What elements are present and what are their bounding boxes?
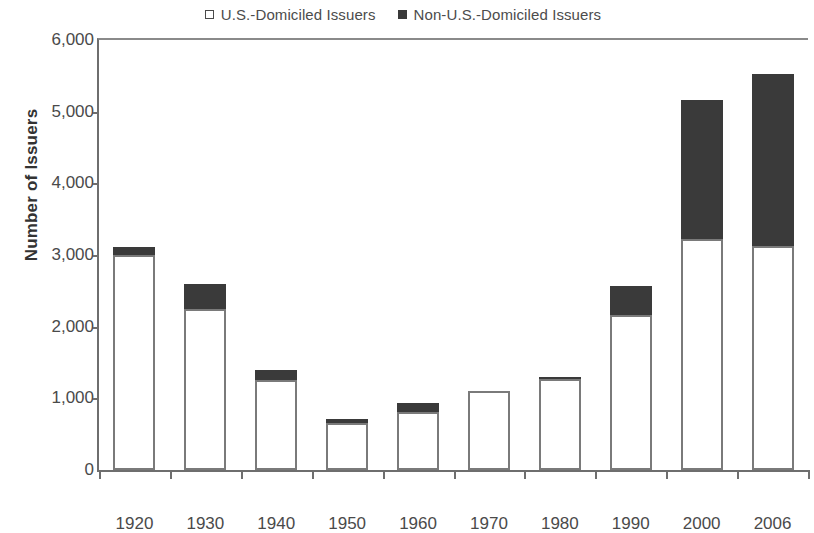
bar-1970[interactable] (468, 40, 510, 470)
bar-2000[interactable] (681, 40, 723, 470)
bar-segment-us-1950[interactable] (326, 423, 368, 470)
y-tick-label: 4,000 (4, 173, 94, 193)
bar-1980[interactable] (539, 40, 581, 470)
bar-segment-non-us-1950[interactable] (326, 419, 368, 423)
x-tick-mark (595, 470, 597, 479)
bar-segment-non-us-1920[interactable] (113, 247, 155, 255)
bar-segment-non-us-1940[interactable] (255, 370, 297, 381)
y-tick-mark (93, 327, 99, 329)
chart-legend: U.S.-Domiciled Issuers Non-U.S.-Domicile… (0, 2, 806, 26)
bar-segment-non-us-1990[interactable] (610, 286, 652, 315)
bar-segment-us-1980[interactable] (539, 379, 581, 470)
x-tick-mark (737, 470, 739, 479)
x-tick-mark (312, 470, 314, 479)
x-tick-mark (99, 470, 101, 479)
y-tick-label: 3,000 (4, 245, 94, 265)
bar-1920[interactable] (113, 40, 155, 470)
bar-segment-non-us-1960[interactable] (397, 403, 439, 412)
bar-1950[interactable] (326, 40, 368, 470)
plot-area: 6,0005,0004,0003,0002,0001,0000192019301… (97, 38, 808, 472)
bar-1930[interactable] (184, 40, 226, 470)
x-tick-mark (383, 470, 385, 479)
bar-segment-non-us-2000[interactable] (681, 100, 723, 239)
x-tick-mark (666, 470, 668, 479)
bar-1990[interactable] (610, 40, 652, 470)
y-tick-mark (93, 398, 99, 400)
legend-swatch-us-domiciled (205, 10, 214, 19)
legend-label-us-domiciled: U.S.-Domiciled Issuers (221, 6, 376, 23)
bar-1960[interactable] (397, 40, 439, 470)
x-tick-mark (454, 470, 456, 479)
bar-segment-non-us-1980[interactable] (539, 377, 581, 379)
legend-entry-us-domiciled[interactable]: U.S.-Domiciled Issuers (205, 6, 376, 23)
bar-2006[interactable] (752, 40, 794, 470)
bar-segment-us-1990[interactable] (610, 315, 652, 470)
bar-segment-us-2006[interactable] (752, 246, 794, 470)
y-tick-label: 6,000 (4, 30, 94, 50)
y-tick-label: 5,000 (4, 102, 94, 122)
x-tick-mark (241, 470, 243, 479)
x-tick-mark (170, 470, 172, 479)
x-tick-mark (808, 470, 810, 479)
legend-entry-non-us-domiciled[interactable]: Non-U.S.-Domiciled Issuers (398, 6, 602, 23)
x-tick-label-2006: 2006 (728, 514, 814, 533)
y-tick-label: 1,000 (4, 388, 94, 408)
y-tick-label: 0 (4, 460, 94, 480)
y-tick-mark (93, 112, 99, 114)
bar-segment-non-us-2006[interactable] (752, 74, 794, 247)
y-tick-mark (93, 183, 99, 185)
bar-segment-us-2000[interactable] (681, 239, 723, 470)
bar-1940[interactable] (255, 40, 297, 470)
legend-swatch-non-us-domiciled (398, 10, 407, 19)
x-tick-mark (524, 470, 526, 479)
bar-segment-non-us-1930[interactable] (184, 284, 226, 309)
y-tick-mark (93, 255, 99, 257)
y-tick-label: 2,000 (4, 317, 94, 337)
bar-segment-us-1930[interactable] (184, 309, 226, 470)
legend-label-non-us-domiciled: Non-U.S.-Domiciled Issuers (414, 6, 602, 23)
bar-segment-us-1940[interactable] (255, 380, 297, 470)
bar-segment-us-1920[interactable] (113, 255, 155, 470)
bar-segment-us-1960[interactable] (397, 412, 439, 470)
bar-segment-us-1970[interactable] (468, 391, 510, 470)
